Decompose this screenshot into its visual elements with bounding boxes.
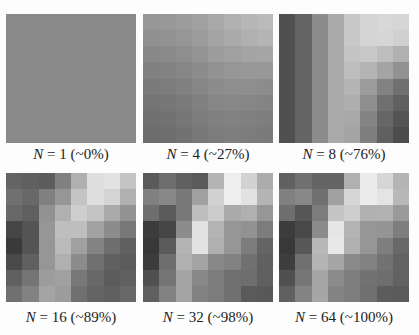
grid-cell <box>328 238 344 254</box>
grid-cell <box>6 30 22 46</box>
grid-cell <box>120 221 136 237</box>
grid-cell <box>104 62 120 78</box>
grid-cell <box>328 79 344 95</box>
grid-cell <box>295 62 311 78</box>
panel-caption-n8: N = 8 (~76%) <box>279 146 409 163</box>
grid-cell <box>104 254 120 270</box>
grid-cell <box>22 173 38 189</box>
grid-cell <box>192 221 208 237</box>
grid-cell <box>55 205 71 221</box>
grid-cell <box>224 286 240 302</box>
grid-cell <box>159 111 175 127</box>
grid-cell <box>295 221 311 237</box>
grid-cell <box>328 62 344 78</box>
caption-value: = 16 (~89%) <box>36 309 116 325</box>
grid-cell <box>6 111 22 127</box>
grid-cell <box>328 46 344 62</box>
grid-cell <box>344 30 360 46</box>
grid-cell <box>328 221 344 237</box>
grid-cell <box>241 127 257 143</box>
grid-cell <box>159 286 175 302</box>
caption-variable: N <box>167 146 177 162</box>
grid-cell <box>159 127 175 143</box>
grid-cell <box>295 79 311 95</box>
grid-cell <box>71 79 87 95</box>
grid-cell <box>143 30 159 46</box>
grid-cell <box>159 221 175 237</box>
grid-cell <box>104 111 120 127</box>
grid-cell <box>192 286 208 302</box>
grid-cell <box>295 189 311 205</box>
grid-cell <box>377 46 393 62</box>
grid-cell <box>192 30 208 46</box>
grid-cell <box>257 30 273 46</box>
grid-cell <box>143 46 159 62</box>
grid-cell <box>55 189 71 205</box>
grid-cell <box>295 95 311 111</box>
grid-cell <box>104 270 120 286</box>
grid-cell <box>257 254 273 270</box>
grid-cell <box>257 95 273 111</box>
grid-cell <box>377 238 393 254</box>
grid-cell <box>104 221 120 237</box>
grid-cell <box>344 173 360 189</box>
grid-cell <box>224 30 240 46</box>
grid-cell <box>120 95 136 111</box>
grid-cell <box>312 14 328 30</box>
grid-cell <box>312 46 328 62</box>
panel-caption-n1: N = 1 (~0%) <box>6 146 136 163</box>
grid-cell <box>55 254 71 270</box>
grid-cell <box>22 95 38 111</box>
grid-cell <box>360 95 376 111</box>
grid-cell <box>55 46 71 62</box>
grid-cell <box>176 46 192 62</box>
grid-cell <box>120 46 136 62</box>
grid-cell <box>208 238 224 254</box>
grid-cell <box>71 286 87 302</box>
grid-cell <box>393 111 409 127</box>
grid-cell <box>176 79 192 95</box>
grid-cell <box>279 238 295 254</box>
panel-caption-n4: N = 4 (~27%) <box>143 146 273 163</box>
grid-cell <box>192 189 208 205</box>
grid-cell <box>39 111 55 127</box>
grid-cell <box>55 286 71 302</box>
grid-cell <box>328 14 344 30</box>
grid-cell <box>22 30 38 46</box>
grid-cell <box>176 173 192 189</box>
grid-cell <box>393 270 409 286</box>
grid-cell <box>55 14 71 30</box>
grid-cell <box>39 286 55 302</box>
grid-cell <box>120 254 136 270</box>
grid-cell <box>176 95 192 111</box>
grid-cell <box>295 173 311 189</box>
grid-cell <box>312 286 328 302</box>
grid-cell <box>295 111 311 127</box>
grid-cell <box>192 95 208 111</box>
grid-cell <box>159 238 175 254</box>
grid-cell <box>143 127 159 143</box>
grid-cell <box>22 14 38 30</box>
grid-cell <box>176 205 192 221</box>
grid-cell <box>328 111 344 127</box>
grid-cell <box>279 254 295 270</box>
grid-cell <box>6 238 22 254</box>
grid-cell <box>344 127 360 143</box>
grid-cell <box>344 254 360 270</box>
grid-cell <box>22 221 38 237</box>
grid-cell <box>55 111 71 127</box>
grid-cell <box>104 79 120 95</box>
grid-cell <box>22 111 38 127</box>
grid-cell <box>55 270 71 286</box>
grid-cell <box>224 254 240 270</box>
grid-cell <box>360 254 376 270</box>
grid-cell <box>295 46 311 62</box>
grid-cell <box>192 111 208 127</box>
grid-cell <box>208 127 224 143</box>
grid-cell <box>377 30 393 46</box>
grid-cell <box>6 286 22 302</box>
grid-cell <box>312 254 328 270</box>
heatmap-panel-n8 <box>279 14 409 143</box>
grid-cell <box>176 30 192 46</box>
grid-cell <box>312 189 328 205</box>
